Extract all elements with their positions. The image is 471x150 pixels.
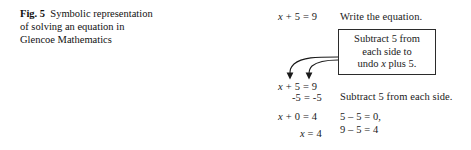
arrow-path-left [290,57,338,74]
annotation-subtract-each-side: Subtract 5 from each side. [340,91,453,103]
annotation-calculation-line-2: 9 – 5 = 4 [340,124,378,136]
arrow-head-right [306,73,313,80]
arrow-head-left [287,73,294,80]
callout-line-2: each side to [362,46,412,59]
callout-line-3: undo x plus 5. [358,58,417,71]
annotation-calculation-line-1: 5 – 5 = 0, [340,111,381,123]
symbolic-equation-diagram: x + 5 = 9 Write the equation. Subtract 5… [230,0,471,150]
figure-number: Fig. 5 [20,8,50,19]
equation-restated: x + 5 = 9 [278,81,317,92]
arrow-path-right [309,60,338,74]
equation-result-zero: x + 0 = 4 [278,111,317,122]
annotation-write-equation: Write the equation. [340,11,422,23]
figure-caption: Fig. 5Symbolic representation of solving… [20,7,160,47]
equation-subtract-step: -5 = -5 [278,92,322,103]
callout-box: Subtract 5 from each side to undo x plus… [338,29,436,75]
equation-solution: x = 4 [278,128,322,139]
equation-original: x + 5 = 9 [278,11,317,22]
callout-line-1: Subtract 5 from [354,33,420,46]
